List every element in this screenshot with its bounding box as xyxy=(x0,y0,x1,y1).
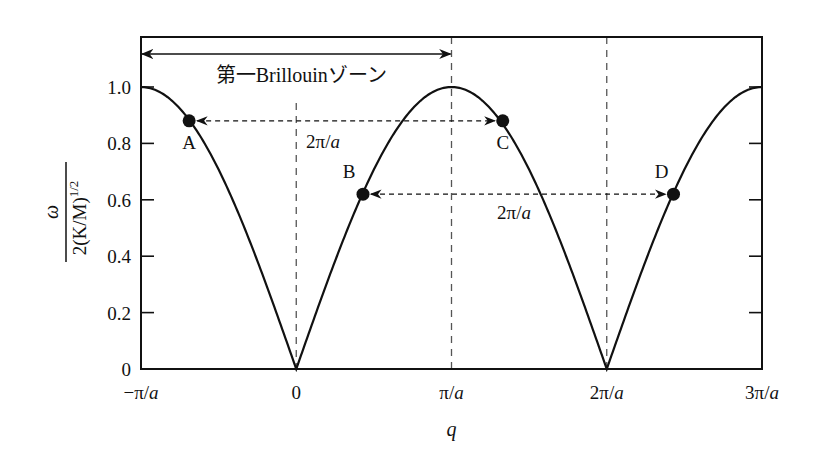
point-label-C: C xyxy=(496,132,509,153)
x-tick-label-4: 3π/a xyxy=(745,382,779,403)
y-axis-label: ω 2(K/M)1/2 xyxy=(40,162,91,262)
y-label-denominator: 2(K/M)1/2 xyxy=(66,181,91,256)
y-tick-label-2: 0.4 xyxy=(107,246,131,267)
x-tick-label-1: 0 xyxy=(292,382,302,403)
brillouin-zone-label: 第一Brillouinゾーン xyxy=(216,64,387,86)
y-ticks: 00.20.40.60.81.0 xyxy=(107,77,762,380)
marked-points: ABCD xyxy=(182,114,680,200)
arrow-ac-label: 2π/a xyxy=(306,131,340,152)
x-tick-label-0: −π/a xyxy=(123,382,158,403)
point-label-D: D xyxy=(655,161,669,182)
x-ticks: −π/a0π/a2π/a3π/a xyxy=(123,382,778,403)
point-D xyxy=(667,188,680,201)
point-label-A: A xyxy=(182,132,196,153)
dispersion-chart: 00.20.40.60.81.0 −π/a0π/a2π/a3π/a ABCD 第… xyxy=(0,0,815,459)
arrow-bd-label: 2π/a xyxy=(497,202,531,223)
y-label-numerator: ω xyxy=(40,205,62,219)
y-tick-label-0: 0 xyxy=(122,359,132,380)
x-tick-label-3: 2π/a xyxy=(590,382,624,403)
y-tick-label-4: 0.8 xyxy=(107,133,131,154)
y-tick-label-5: 1.0 xyxy=(107,77,131,98)
x-axis-label: q xyxy=(447,418,457,441)
point-A xyxy=(183,114,196,127)
point-C xyxy=(496,114,509,127)
y-tick-label-1: 0.2 xyxy=(107,303,131,324)
point-label-B: B xyxy=(343,161,356,182)
x-tick-label-2: π/a xyxy=(439,382,463,403)
y-tick-label-3: 0.6 xyxy=(107,190,131,211)
point-B xyxy=(357,188,370,201)
